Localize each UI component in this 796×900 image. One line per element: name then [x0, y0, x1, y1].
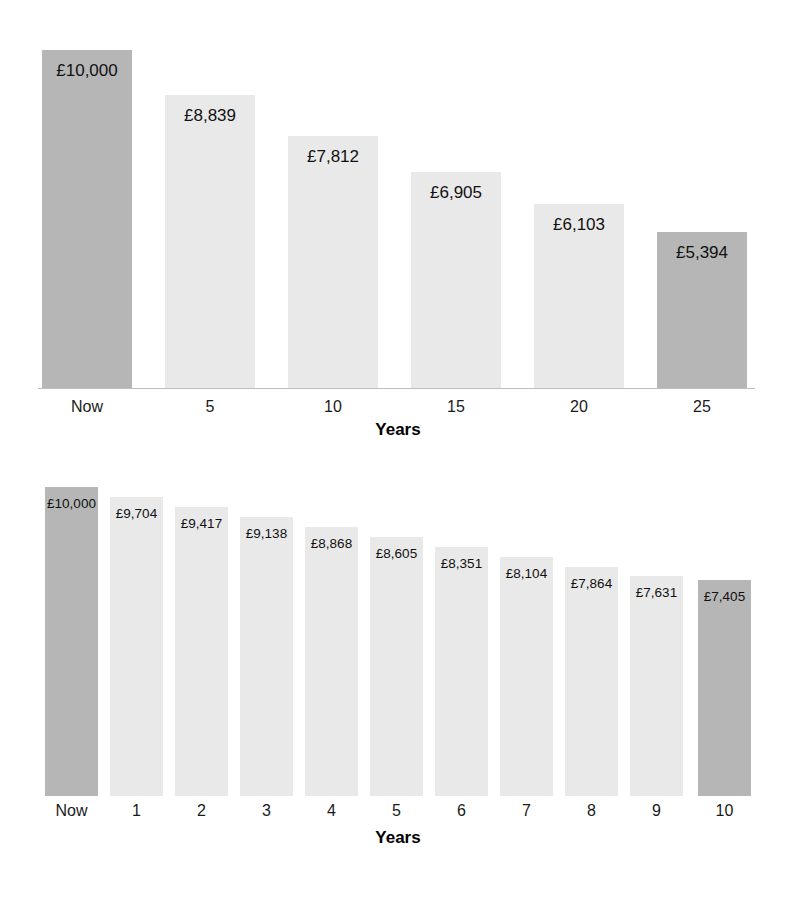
- x-tick-label: 7: [500, 802, 553, 820]
- x-tick-label: 8: [565, 802, 618, 820]
- bar-value-label: £8,605: [370, 546, 423, 561]
- bar-value-label: £9,704: [110, 506, 163, 521]
- x-tick-label: 9: [630, 802, 683, 820]
- bar-chart-five-year-intervals: £10,000£8,839£7,812£6,905£6,103£5,394 Ye…: [0, 0, 796, 455]
- x-tick-label: 10: [698, 802, 751, 820]
- x-tick-label: 1: [110, 802, 163, 820]
- x-tick-label: 6: [435, 802, 488, 820]
- bar: £7,812: [288, 136, 378, 389]
- chart-page: £10,000£8,839£7,812£6,905£6,103£5,394 Ye…: [0, 0, 796, 900]
- bar-chart-yearly-intervals: £10,000£9,704£9,417£9,138£8,868£8,605£8,…: [0, 470, 796, 900]
- bar: £8,839: [165, 95, 255, 389]
- x-tick-label: 15: [411, 398, 501, 416]
- bar-value-label: £8,839: [165, 106, 255, 126]
- bar-value-label: £6,103: [534, 215, 624, 235]
- bar: £8,351: [435, 547, 488, 796]
- bar: £8,605: [370, 537, 423, 796]
- x-tick-label: 3: [240, 802, 293, 820]
- bar: £7,864: [565, 567, 618, 796]
- bar-value-label: £8,868: [305, 536, 358, 551]
- bar: £9,704: [110, 497, 163, 796]
- x-tick-label: 5: [370, 802, 423, 820]
- chart-two-plot-area: £10,000£9,704£9,417£9,138£8,868£8,605£8,…: [0, 470, 796, 796]
- bar-value-label: £5,394: [657, 243, 747, 263]
- bar-value-label: £10,000: [42, 61, 132, 81]
- bar-value-label: £9,138: [240, 526, 293, 541]
- chart-one-x-axis-title: Years: [0, 420, 796, 440]
- x-tick-label: 10: [288, 398, 378, 416]
- bar-value-label: £7,405: [698, 589, 751, 604]
- x-tick-label: 5: [165, 398, 255, 416]
- chart-two-x-axis-title: Years: [0, 828, 796, 848]
- bar-value-label: £10,000: [45, 496, 98, 511]
- bar-value-label: £8,351: [435, 556, 488, 571]
- x-tick-label: 25: [657, 398, 747, 416]
- bar: £9,417: [175, 507, 228, 796]
- bar-value-label: £7,812: [288, 147, 378, 167]
- bar-value-label: £6,905: [411, 183, 501, 203]
- bar: £7,405: [698, 580, 751, 796]
- bar: £8,868: [305, 527, 358, 796]
- bar: £7,631: [630, 576, 683, 796]
- bar-value-label: £9,417: [175, 516, 228, 531]
- bar: £10,000: [42, 50, 132, 389]
- chart-one-plot-area: £10,000£8,839£7,812£6,905£6,103£5,394: [0, 0, 796, 389]
- x-tick-label: Now: [45, 802, 98, 820]
- bar: £9,138: [240, 517, 293, 796]
- x-tick-label: 4: [305, 802, 358, 820]
- bar-value-label: £8,104: [500, 566, 553, 581]
- bar: £8,104: [500, 557, 553, 796]
- x-tick-label: 2: [175, 802, 228, 820]
- bar: £6,905: [411, 172, 501, 389]
- x-tick-label: Now: [42, 398, 132, 416]
- bar-value-label: £7,864: [565, 576, 618, 591]
- chart-one-x-axis-line: [38, 388, 755, 389]
- bar: £5,394: [657, 232, 747, 389]
- bar-value-label: £7,631: [630, 585, 683, 600]
- x-tick-label: 20: [534, 398, 624, 416]
- bar: £6,103: [534, 204, 624, 389]
- bar: £10,000: [45, 487, 98, 796]
